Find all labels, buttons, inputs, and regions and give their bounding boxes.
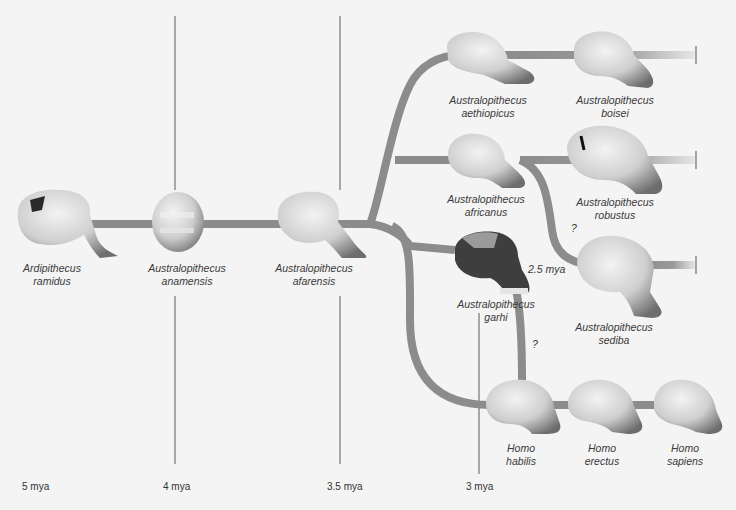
- label-australopithecus-robustus: Australopithecus robustus: [560, 196, 670, 222]
- tick-3-mya: 3 mya: [466, 481, 493, 492]
- label-australopithecus-anamensis: Australopithecus anamensis: [132, 262, 242, 288]
- skull-australopithecus-anamensis: [152, 192, 204, 252]
- skull-homo-erectus: [568, 380, 642, 434]
- annotation-question-habilis: ?: [532, 338, 538, 350]
- tick-5-mya: 5 mya: [22, 481, 49, 492]
- tick-3-5-mya: 3.5 mya: [327, 481, 363, 492]
- tick-4-mya: 4 mya: [163, 481, 190, 492]
- label-australopithecus-aethiopicus: Australopithecus aethiopicus: [433, 94, 543, 120]
- annotation-question-sediba: ?: [571, 222, 577, 234]
- skull-homo-sapiens: [654, 380, 722, 434]
- label-australopithecus-africanus: Australopithecus africanus: [431, 193, 541, 219]
- label-australopithecus-afarensis: Australopithecus afarensis: [259, 262, 369, 288]
- label-australopithecus-boisei: Australopithecus boisei: [560, 94, 670, 120]
- skull-australopithecus-robustus: [567, 126, 662, 194]
- skull-homo-habilis: [486, 380, 560, 434]
- skull-australopithecus-sediba: [577, 236, 662, 318]
- label-homo-sapiens: Homo sapiens: [630, 442, 736, 468]
- skull-australopithecus-africanus: [448, 134, 525, 188]
- phylogeny-diagram: [0, 0, 736, 510]
- label-ardipithecus-ramidus: Ardipithecus ramidus: [0, 262, 107, 288]
- skull-australopithecus-garhi: [455, 232, 529, 294]
- label-australopithecus-garhi: Australopithecus garhi: [441, 298, 551, 324]
- annotation-2-5-mya: 2.5 mya: [528, 263, 565, 275]
- label-australopithecus-sediba: Australopithecus sediba: [559, 321, 669, 347]
- skull-australopithecus-boisei: [574, 32, 653, 88]
